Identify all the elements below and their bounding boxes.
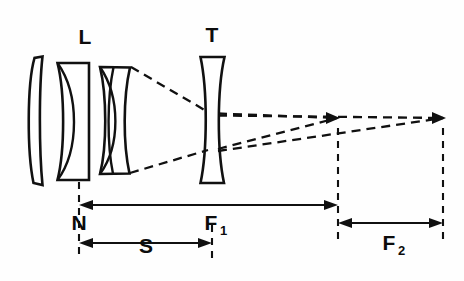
- primary-focus-arrowhead: [326, 112, 340, 124]
- label-tele-group-T: T: [206, 23, 219, 46]
- objective-lens-element-3: [100, 67, 130, 174]
- objective-lens-element-1: [29, 57, 43, 186]
- dimension-F1-right-arrowhead: [324, 200, 338, 210]
- dimension-S-right-arrowhead: [198, 238, 212, 248]
- objective-lens-group-L: L: [29, 25, 130, 185]
- dimension-F2-left-arrowhead: [338, 218, 352, 228]
- label-F2: F: [383, 231, 396, 254]
- dimension-S-left-arrowhead: [79, 238, 93, 248]
- optical-diagram-canvas: L T F 1 F 2: [0, 0, 464, 281]
- label-F1-subscript: 1: [220, 223, 227, 238]
- ray-bundle: [130, 67, 446, 173]
- dimension-F1-left-arrowhead: [79, 200, 93, 210]
- label-F2-subscript: 2: [398, 243, 405, 258]
- image-plane-arrowhead: [432, 112, 446, 124]
- ray-lower-to-primary-focus: [218, 118, 337, 149]
- tele-negative-group-T: T: [201, 23, 225, 183]
- dimension-F2-right-arrowhead: [429, 218, 443, 228]
- ray-upper-incident: [131, 67, 208, 112]
- lens-element-1-outline: [29, 57, 43, 186]
- tele-element-outline: [201, 57, 225, 183]
- ray-lower-to-image-plane: [218, 118, 443, 151]
- dimension-F2: F 2: [338, 218, 443, 258]
- optical-diagram-figure: L T F 1 F 2: [0, 0, 464, 281]
- ray-lower-incident: [130, 150, 208, 173]
- label-nodal-point-N: N: [71, 211, 86, 234]
- dimension-S: S: [79, 234, 212, 257]
- label-F1: F: [205, 211, 218, 234]
- label-objective-group-L: L: [79, 25, 92, 48]
- objective-lens-element-2: [58, 63, 90, 180]
- dimension-F1: F 1: [79, 200, 338, 238]
- label-S: S: [139, 234, 153, 257]
